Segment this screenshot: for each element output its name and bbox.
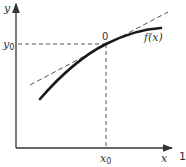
y0-label: y0 xyxy=(2,38,14,52)
curve-fx xyxy=(40,28,161,99)
y-axis-label: y xyxy=(3,2,11,15)
x-axis-label: x xyxy=(161,152,168,165)
point-label: 0 xyxy=(102,31,108,42)
edge-mark: 1 xyxy=(179,150,186,163)
tangent-diagram: y y0 0 f(x) x0 x 1 xyxy=(0,0,186,167)
curve-label: f(x) xyxy=(143,31,163,44)
x0-label: x0 xyxy=(100,152,111,166)
